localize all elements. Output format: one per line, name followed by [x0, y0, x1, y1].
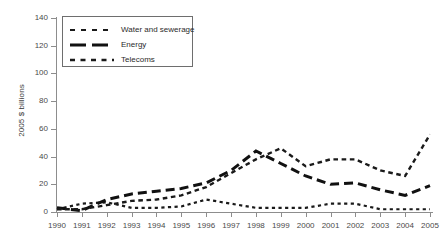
legend-entry-energy: Energy	[70, 37, 186, 52]
series-line-energy	[57, 151, 430, 211]
y-tick-mark	[51, 46, 56, 47]
x-tick-mark	[306, 213, 307, 217]
x-tick-mark	[206, 213, 207, 217]
y-tick-label: 0	[6, 208, 48, 216]
x-tick-label: 2005	[413, 221, 443, 230]
x-tick-mark	[355, 213, 356, 217]
x-tick-mark	[331, 213, 332, 217]
y-tick-label: 80	[6, 97, 48, 105]
y-tick-mark	[51, 73, 56, 74]
x-tick-mark	[181, 213, 182, 217]
chart-figure: 2005 $ billions 020406080100120140 19901…	[0, 0, 443, 244]
y-tick-mark	[51, 212, 56, 213]
x-tick-mark	[82, 213, 83, 217]
x-tick-mark	[281, 213, 282, 217]
x-tick-mark	[156, 213, 157, 217]
legend-label-water: Water and sewerage	[121, 25, 195, 35]
x-tick-mark	[405, 213, 406, 217]
y-tick-label: 100	[6, 69, 48, 77]
y-tick-mark	[51, 129, 56, 130]
y-tick-label: 40	[6, 153, 48, 161]
series-line-water-and-sewerage	[57, 200, 430, 210]
x-tick-mark	[107, 213, 108, 217]
x-axis-line	[56, 212, 433, 213]
dotted-line-swatch	[70, 25, 114, 35]
legend-label-telecoms: Telecoms	[121, 55, 155, 65]
legend-label-energy: Energy	[121, 40, 146, 50]
chart-legend: Water and sewerage Energy Telecoms	[62, 16, 193, 67]
legend-entry-telecoms: Telecoms	[70, 52, 186, 67]
y-axis-line	[56, 17, 57, 213]
x-tick-mark	[380, 213, 381, 217]
y-tick-label: 140	[6, 14, 48, 22]
x-tick-mark	[256, 213, 257, 217]
series-line-telecoms	[57, 134, 430, 209]
x-tick-mark	[430, 213, 431, 217]
y-tick-label: 20	[6, 180, 48, 188]
x-tick-mark	[132, 213, 133, 217]
y-tick-mark	[51, 157, 56, 158]
long-dash-line-swatch	[70, 40, 114, 50]
legend-entry-water: Water and sewerage	[70, 22, 186, 37]
y-tick-mark	[51, 184, 56, 185]
dashed-line-swatch	[70, 55, 114, 65]
y-tick-mark	[51, 18, 56, 19]
y-tick-mark	[51, 101, 56, 102]
y-tick-label: 120	[6, 42, 48, 50]
y-tick-label: 60	[6, 125, 48, 133]
x-tick-mark	[231, 213, 232, 217]
x-tick-mark	[57, 213, 58, 217]
